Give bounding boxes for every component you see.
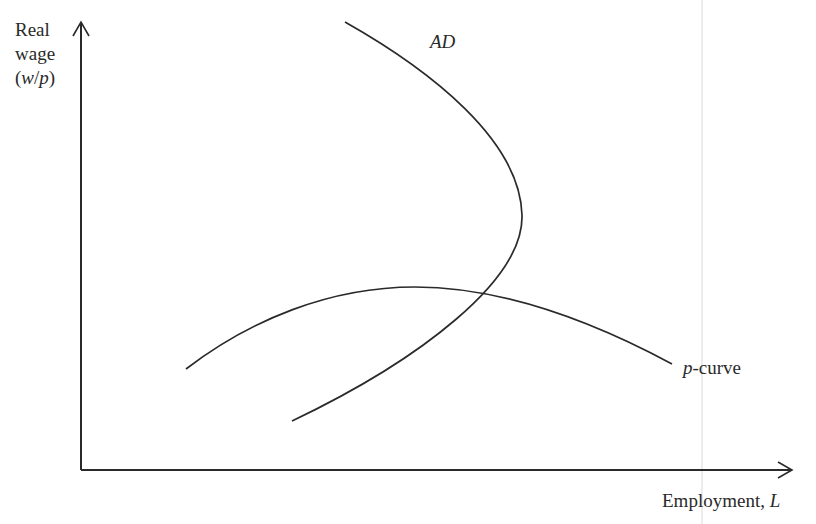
x-axis-label-text: Employment, — [662, 490, 770, 511]
y-axis-label-line1: Real — [15, 19, 50, 41]
x-axis-label-var: L — [770, 490, 781, 511]
y-axis-label-line3: (w/p) — [15, 67, 55, 89]
price-symbol: p — [39, 67, 49, 88]
wage-symbol: w — [21, 67, 34, 88]
p-curve — [186, 287, 672, 369]
p-curve-label-var: p — [683, 357, 693, 378]
x-axis-label: Employment, L — [662, 490, 780, 512]
ad-curve-label: AD — [430, 31, 455, 53]
diagram-canvas — [0, 0, 816, 524]
p-curve-label-rest: -curve — [693, 357, 742, 378]
y-axis-label-line2: wage — [15, 43, 55, 65]
p-curve-label: p-curve — [683, 357, 741, 379]
paren-close: ) — [49, 67, 55, 88]
ad-curve — [292, 22, 522, 421]
